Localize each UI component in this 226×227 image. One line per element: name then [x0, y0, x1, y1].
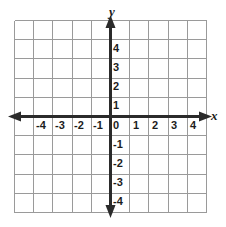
y-tick-label-1: 1 — [113, 100, 119, 111]
x-tick-label-neg2: -2 — [74, 120, 84, 131]
origin-label: 0 — [113, 120, 119, 131]
y-tick-label-neg4: -4 — [113, 196, 123, 207]
x-tick-label-4: 4 — [190, 120, 196, 131]
x-tick-label-2: 2 — [152, 120, 158, 131]
coordinate-plane-svg — [0, 0, 226, 227]
x-tick-label-neg3: -3 — [55, 120, 65, 131]
x-tick-label-3: 3 — [171, 120, 177, 131]
y-tick-label-neg3: -3 — [113, 177, 123, 188]
y-tick-label-4: 4 — [113, 43, 119, 54]
y-tick-label-3: 3 — [113, 62, 119, 73]
x-tick-label-neg1: -1 — [93, 120, 103, 131]
x-tick-label-1: 1 — [133, 120, 139, 131]
y-tick-label-neg1: -1 — [113, 139, 123, 150]
y-tick-label-2: 2 — [113, 81, 119, 92]
y-axis-letter: y — [109, 5, 115, 18]
x-tick-label-neg4: -4 — [36, 120, 46, 131]
x-axis-letter: x — [211, 109, 218, 122]
coordinate-plane: y x -4 -3 -2 -1 0 1 2 3 4 4 3 2 1 -1 -2 … — [0, 0, 226, 227]
y-tick-label-neg2: -2 — [113, 158, 123, 169]
